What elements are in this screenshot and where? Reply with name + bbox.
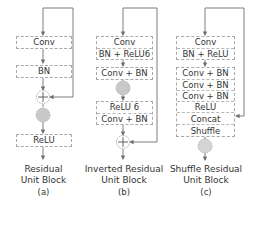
caption-line: Unit Block	[0, 175, 87, 186]
layer-label: Conv	[17, 37, 71, 48]
layer-label: Conv	[177, 37, 234, 48]
bn-block: BN	[16, 65, 72, 78]
sub-label-b: (b)	[84, 187, 164, 197]
conv-bn-relu6-block: Conv BN + ReLU6	[96, 36, 153, 60]
caption-line: Unit Block	[166, 175, 246, 186]
layer-label: ReLU 6	[97, 102, 152, 113]
activation-node	[198, 139, 212, 153]
sub-label-a: (a)	[0, 187, 87, 197]
layer-label: BN + ReLU6	[97, 48, 152, 59]
caption-line: Inverted Residual	[84, 164, 164, 175]
shuffle-stack-block: Conv + BN Conv + BN Conv + BN ReLU Conca…	[176, 67, 235, 137]
add-node	[117, 136, 130, 149]
caption-line: Residual	[0, 164, 87, 175]
layer-label: Conv + BN	[177, 68, 234, 79]
conv-bn-block: Conv + BN	[96, 67, 153, 80]
caption-c: Shuffle Residual Unit Block	[166, 164, 246, 186]
layer-label: Conv + BN	[97, 68, 152, 79]
conv-bn-relu-block: Conv BN + ReLU	[176, 36, 235, 60]
conv-block: Conv	[16, 36, 72, 49]
layer-label: BN + ReLU	[177, 48, 234, 59]
relu6-conv-bn-block: ReLU 6 Conv + BN	[96, 101, 153, 125]
layer-label: Conv + BN	[177, 90, 234, 101]
layer-label: ReLU	[17, 135, 71, 146]
caption-line: Unit Block	[84, 175, 164, 186]
layer-label: Conv + BN	[97, 113, 152, 124]
activation-node	[116, 81, 130, 95]
layer-label: Conv + BN	[177, 79, 234, 90]
sub-label-c: (c)	[166, 187, 246, 197]
layer-label: Concat	[177, 112, 234, 124]
layer-label: ReLU	[177, 101, 234, 112]
layer-label: BN	[17, 66, 71, 77]
add-node	[37, 91, 50, 104]
relu-block: ReLU	[16, 134, 72, 147]
caption-a: Residual Unit Block	[0, 164, 87, 186]
activation-node	[36, 108, 50, 122]
layer-label: Conv	[97, 37, 152, 48]
layer-label: Shuffle	[177, 124, 234, 136]
caption-b: Inverted Residual Unit Block	[84, 164, 164, 186]
caption-line: Shuffle Residual	[166, 164, 246, 175]
